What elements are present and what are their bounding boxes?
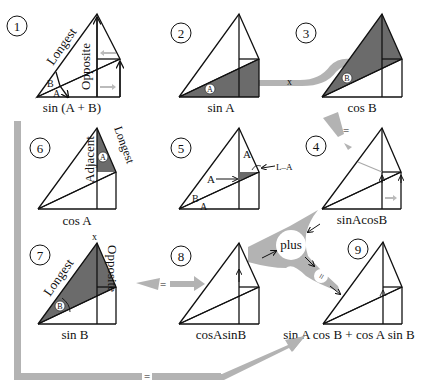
caption-sin-b: sin B xyxy=(61,327,88,342)
caption-cosasinb: cosAsinB xyxy=(196,327,247,342)
caption-cos-b: cos B xyxy=(347,100,377,115)
panel-4: 4 sinAcosB xyxy=(306,128,401,227)
diagram-stage: 1 Longest Opposite B A sin (A + B) 2 xyxy=(0,0,443,386)
panel-number: 4 xyxy=(313,139,320,154)
angle-label: B xyxy=(344,74,349,83)
panel-number: 1 xyxy=(14,19,21,34)
angle-mid-label: A xyxy=(207,173,215,185)
panel-8: 8 = cosAsinB xyxy=(160,243,259,342)
angle-a-label: A xyxy=(53,88,61,99)
panel-1: 1 Longest Opposite B A sin (A + B) xyxy=(7,14,120,115)
opposite-label: Opposite xyxy=(78,43,93,90)
equals-sign: = xyxy=(343,124,349,136)
panel-3: 3 B cos B = xyxy=(296,14,402,136)
panel-7: 7 B x Longest Opposite sin B xyxy=(30,231,120,342)
panel-number: 5 xyxy=(178,141,185,156)
caption-sinacosb: sinAcosB xyxy=(337,212,388,227)
x-label: x xyxy=(287,76,292,87)
panel-number: 7 xyxy=(37,248,44,263)
panel-number: 6 xyxy=(37,141,44,156)
arrow-3-to-4 xyxy=(323,112,344,137)
longest-label: Longest xyxy=(111,124,138,166)
right-minus-a-label: L–A xyxy=(276,162,293,172)
panel-number: 8 xyxy=(178,249,185,264)
trig-identity-diagram: 1 Longest Opposite B A sin (A + B) 2 xyxy=(0,0,443,386)
caption-cos-a: cos A xyxy=(62,213,92,228)
opposite-label: Opposite xyxy=(105,245,120,292)
angle-label: B xyxy=(57,302,62,311)
angle-b-label: B xyxy=(192,193,199,204)
panel-5: 5 A A L–A B A xyxy=(171,128,293,212)
angle-a-label: A xyxy=(200,201,208,212)
angle-top-label: A xyxy=(243,148,251,160)
caption-sum: sin A cos B + cos A sin B xyxy=(283,327,415,342)
caption-sin-a-plus-b: sin (A + B) xyxy=(43,100,101,115)
bottom-equals-sign: = xyxy=(144,370,150,382)
equals-sign: = xyxy=(160,278,166,290)
panel-6: 6 A Adjacent Longest cos A xyxy=(30,124,138,228)
panel-number: 2 xyxy=(178,26,185,41)
arrow-7-to-8 xyxy=(136,278,160,290)
x-label: x xyxy=(92,231,97,242)
adjacent-label: Adjacent xyxy=(82,136,97,183)
panel-number: 3 xyxy=(303,26,310,41)
angle-label: A xyxy=(100,153,106,162)
angle-label: A xyxy=(207,85,213,94)
shaded-triangle-b xyxy=(322,14,402,97)
caption-sin-a: sin A xyxy=(207,100,235,115)
plus-label: plus xyxy=(280,237,302,252)
panel-number: 9 xyxy=(355,242,362,257)
panel-2: 2 A sin A x xyxy=(171,14,292,115)
